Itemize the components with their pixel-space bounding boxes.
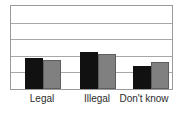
x-axis-labels: Legal Illegal Don't know bbox=[10, 92, 173, 112]
bar-dont-know-series-2 bbox=[151, 62, 169, 89]
bars-layer bbox=[11, 6, 172, 89]
x-label-dont-know: Don't know bbox=[115, 92, 173, 105]
bar-illegal-series-1 bbox=[80, 52, 98, 89]
bar-legal-series-2 bbox=[43, 60, 61, 89]
bar-group-dont-know bbox=[133, 6, 169, 89]
bar-illegal-series-2 bbox=[98, 54, 116, 89]
bar-group-legal bbox=[25, 6, 61, 89]
bar-group-illegal bbox=[80, 6, 116, 89]
plot-area bbox=[10, 5, 173, 90]
bar-chart-figure: Legal Illegal Don't know bbox=[0, 0, 184, 115]
bar-legal-series-1 bbox=[25, 58, 43, 89]
bar-dont-know-series-1 bbox=[133, 66, 151, 89]
